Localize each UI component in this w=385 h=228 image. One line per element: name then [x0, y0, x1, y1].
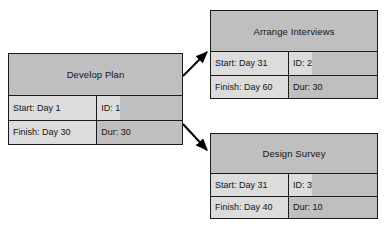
task-finish-cell: Finish: Day 40: [211, 197, 289, 219]
task-row-finish: Finish: Day 60 Dur: 30: [211, 76, 377, 99]
task-start-cell: Start: Day 31: [211, 52, 289, 75]
task-row-finish: Finish: Day 30 Dur: 30: [9, 121, 182, 145]
task-duration-cell: Dur: 10: [289, 197, 323, 219]
task-node-develop-plan[interactable]: Develop Plan Start: Day 1 ID: 1 Finish: …: [8, 53, 183, 145]
task-id-cell: ID: 2: [289, 52, 312, 75]
task-duration-cell: Dur: 30: [289, 76, 323, 99]
task-id-cell: ID: 3: [289, 174, 312, 196]
arrow-develop-plan-to-design-survey: [183, 124, 207, 150]
task-title: Develop Plan: [9, 54, 182, 96]
task-finish-cell: Finish: Day 30: [9, 121, 97, 145]
task-row-start: Start: Day 1 ID: 1: [9, 96, 182, 121]
task-row-finish: Finish: Day 40 Dur: 10: [211, 197, 377, 219]
task-row-start: Start: Day 31 ID: 2: [211, 52, 377, 76]
task-start-cell: Start: Day 1: [9, 96, 97, 120]
task-duration-cell: Dur: 30: [97, 121, 131, 145]
diagram-canvas: Develop Plan Start: Day 1 ID: 1 Finish: …: [0, 0, 385, 228]
arrow-develop-plan-to-arrange-interviews: [183, 52, 207, 76]
task-node-arrange-interviews[interactable]: Arrange Interviews Start: Day 31 ID: 2 F…: [210, 10, 378, 99]
task-finish-cell: Finish: Day 60: [211, 76, 289, 99]
task-id-cell: ID: 1: [97, 96, 120, 120]
task-node-design-survey[interactable]: Design Survey Start: Day 31 ID: 3 Finish…: [210, 133, 378, 219]
task-title: Design Survey: [211, 134, 377, 174]
task-row-start: Start: Day 31 ID: 3: [211, 174, 377, 197]
task-title: Arrange Interviews: [211, 11, 377, 52]
task-start-cell: Start: Day 31: [211, 174, 289, 196]
